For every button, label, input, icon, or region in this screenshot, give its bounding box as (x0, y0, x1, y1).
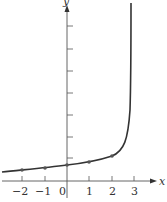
chart-plot-area (0, 0, 167, 202)
x-tick-label-3: 3 (131, 186, 138, 197)
x-tick-label-2: 2 (109, 186, 116, 197)
y-axis-label: y (63, 0, 69, 7)
x-tick-label-0: 0 (59, 186, 66, 197)
data-point (43, 166, 47, 170)
data-point (20, 168, 24, 172)
x-tick-label-neg1: −1 (35, 186, 51, 197)
x-tick-label-1: 1 (86, 186, 93, 197)
y-ticks (67, 26, 73, 158)
x-axis-label: x (159, 176, 165, 187)
x-ticks (22, 176, 134, 181)
data-point (110, 154, 114, 158)
data-point (65, 163, 69, 167)
x-axis-arrow-icon (150, 179, 157, 184)
function-curve (2, 3, 131, 172)
x-tick-label-neg2: −2 (12, 186, 28, 197)
data-point (87, 160, 91, 164)
